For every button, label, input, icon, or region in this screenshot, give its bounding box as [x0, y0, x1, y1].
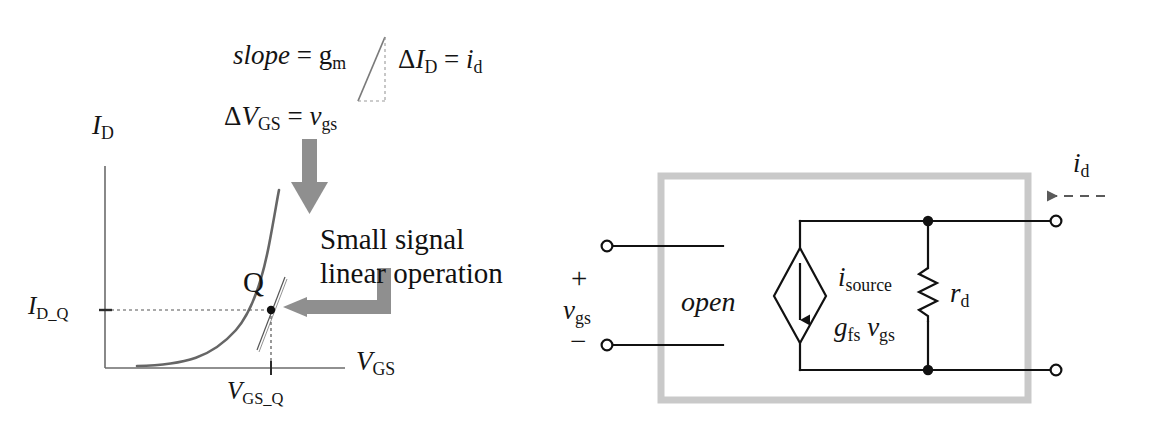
small-signal-vgs-symbol: v [309, 101, 321, 131]
rd-symbol: r [950, 278, 961, 308]
vgs-symbol-source: v [867, 312, 879, 342]
x-axis-label: VGS [356, 348, 395, 375]
small-signal-id-subscript: d [474, 57, 483, 77]
x-tick-label: VGS_Q [227, 378, 284, 403]
y-tick-label: ID_Q [28, 293, 68, 318]
source-current-label: isource [838, 264, 892, 291]
y-axis-label-subscript: D [101, 123, 114, 143]
figure-root: slope = gm ΔID = id ΔVGS = vgs ID VGS ID… [0, 0, 1166, 448]
input-voltage-label: vgs [563, 297, 591, 324]
slope-gm-symbol: g [319, 40, 333, 70]
source-expression-label: gfs vgs [834, 314, 895, 341]
output-terminal-bottom [1051, 365, 1062, 376]
x-tick-label-symbol: V [227, 377, 242, 404]
y-axis-label-symbol: I [92, 110, 101, 140]
small-signal-annotation: Small signal linear operation [320, 222, 503, 290]
slope-annotation: slope = gm [233, 42, 346, 69]
slope-equals: = [297, 40, 312, 70]
input-terminal-negative [602, 340, 613, 351]
dependent-current-source [774, 248, 826, 343]
gfs-symbol: g [834, 312, 848, 342]
input-terminal-positive [602, 241, 613, 252]
x-axis-label-symbol: V [356, 346, 373, 376]
x-axis-label-subscript: GS [373, 359, 396, 379]
resistor-label: rd [950, 280, 969, 307]
gfs-subscript: fs [848, 325, 861, 345]
slope-word: slope [233, 40, 290, 70]
rd-resistor-symbol [919, 268, 937, 322]
delta-id-annotation: ΔID = id [398, 46, 482, 73]
junction-dot-bottom [923, 365, 933, 375]
input-voltage-symbol: v [563, 295, 575, 325]
small-signal-line-2: linear operation [320, 256, 503, 290]
slope-triangle [358, 37, 385, 101]
delta-vgs-subscript: GS [258, 114, 281, 134]
input-plus-label: + [571, 264, 587, 293]
delta-symbol-id: Δ [398, 44, 415, 74]
y-axis-label: ID [92, 112, 114, 139]
delta-vgs-annotation: ΔVGS = vgs [224, 103, 337, 130]
output-current-subscript: d [1081, 161, 1090, 181]
small-signal-line-1: Small signal [320, 222, 503, 256]
delta-id-subscript: D [424, 57, 437, 77]
slope-gm-subscript: m [332, 53, 346, 73]
output-current-symbol: i [1073, 148, 1081, 178]
q-point-label: Q [243, 268, 264, 297]
source-current-symbol: i [838, 262, 846, 292]
y-tick-label-subscript: D_Q [36, 304, 68, 323]
delta-id-equals: = [444, 44, 459, 74]
delta-symbol-vgs: Δ [224, 101, 241, 131]
slope-hypotenuse [358, 37, 385, 101]
q-point-marker [267, 306, 275, 314]
open-label: open [681, 288, 735, 316]
delta-vgs-equals: = [287, 101, 302, 131]
x-tick-label-subscript: GS_Q [242, 389, 283, 408]
delta-vgs-symbol: V [241, 101, 258, 131]
source-current-subscript: source [846, 275, 893, 295]
vgs-subscript-source: gs [879, 325, 895, 345]
small-signal-vgs-subscript: gs [321, 114, 337, 134]
junction-dot-top [923, 216, 933, 226]
rd-subscript: d [961, 291, 970, 311]
input-minus-label: − [570, 327, 586, 356]
small-signal-id-symbol: i [466, 44, 474, 74]
output-terminal-top [1051, 216, 1062, 227]
figure-vector-layer [0, 0, 1166, 448]
circuit-wires [614, 221, 1050, 370]
gray-down-arrow [291, 139, 328, 214]
output-current-label: id [1073, 150, 1089, 177]
